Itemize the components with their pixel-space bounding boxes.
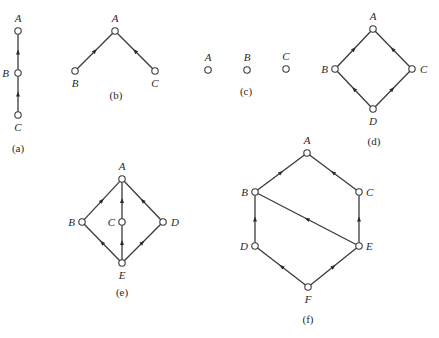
- node-D: [252, 243, 258, 249]
- node-label-A: A: [118, 160, 126, 172]
- node-label-C: C: [420, 63, 428, 75]
- node-label-B: B: [321, 63, 328, 75]
- node-label-B: B: [68, 216, 75, 228]
- node-B: [15, 70, 21, 76]
- node-label-A: A: [204, 51, 212, 63]
- node-A: [304, 150, 310, 156]
- node-label-D: D: [239, 240, 248, 252]
- node-A: [205, 67, 211, 73]
- node-label-E: E: [118, 269, 126, 281]
- node-label-A: A: [14, 12, 22, 24]
- panel-caption: (b): [110, 89, 123, 102]
- diagram-panel-d: ABCD(d): [321, 10, 428, 148]
- arrowhead-icon: [357, 217, 361, 222]
- node-label-B: B: [241, 186, 248, 198]
- node-F: [305, 284, 311, 290]
- node-C: [409, 66, 415, 72]
- node-B: [244, 67, 250, 73]
- node-label-E: E: [365, 240, 373, 252]
- node-C: [283, 66, 289, 72]
- node-label-F: F: [304, 293, 312, 305]
- node-label-D: D: [170, 216, 179, 228]
- diagram-panel-e: ABCDE(e): [68, 160, 179, 299]
- diagram-panel-b: ABC(b): [72, 12, 160, 102]
- node-label-B: B: [244, 51, 251, 63]
- hasse-diagrams-figure: ABC(a)ABC(b)ABC(c)ABCD(d)ABCDE(e)ABCDEF(…: [0, 0, 439, 338]
- node-D: [370, 106, 376, 112]
- arrowhead-icon: [16, 92, 20, 97]
- diagram-panel-a: ABC(a): [2, 12, 24, 155]
- node-label-B: B: [72, 77, 79, 89]
- node-label-A: A: [369, 10, 377, 22]
- node-A: [15, 28, 21, 34]
- arrowhead-icon: [120, 198, 124, 203]
- node-A: [112, 28, 118, 34]
- node-label-B: B: [2, 67, 9, 79]
- arrowhead-icon: [305, 218, 310, 222]
- node-E: [356, 243, 362, 249]
- node-label-C: C: [108, 216, 116, 228]
- node-B: [79, 219, 85, 225]
- node-B: [332, 66, 338, 72]
- node-label-D: D: [368, 115, 377, 127]
- panel-caption: (e): [116, 286, 129, 299]
- diagram-panel-c: ABC(c): [204, 50, 291, 98]
- node-E: [119, 260, 125, 266]
- panel-caption: (a): [12, 142, 25, 155]
- node-label-C: C: [366, 186, 374, 198]
- arrowhead-icon: [120, 240, 124, 245]
- diagram-panel-f: ABCDEF(f): [239, 134, 374, 326]
- node-label-C: C: [14, 121, 22, 133]
- arrowhead-icon: [253, 217, 257, 222]
- node-C: [152, 68, 158, 74]
- node-label-A: A: [303, 134, 311, 146]
- node-C: [15, 112, 21, 118]
- node-B: [252, 189, 258, 195]
- node-A: [370, 26, 376, 32]
- panel-caption: (f): [303, 313, 314, 326]
- node-label-C: C: [151, 77, 159, 89]
- panel-caption: (c): [240, 85, 253, 98]
- node-B: [72, 68, 78, 74]
- node-C: [356, 189, 362, 195]
- node-A: [119, 176, 125, 182]
- node-label-A: A: [111, 12, 119, 24]
- node-C: [119, 219, 125, 225]
- panel-caption: (d): [368, 135, 381, 148]
- arrowhead-icon: [16, 50, 20, 55]
- node-D: [160, 219, 166, 225]
- node-label-C: C: [282, 50, 290, 62]
